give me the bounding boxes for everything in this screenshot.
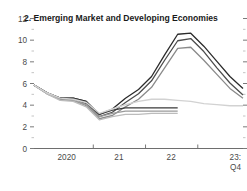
x-tick-label: 22 (167, 153, 177, 162)
x-axis-tick-labels: 2020212223:Q4 (58, 153, 242, 172)
x-tick-label: 23: (230, 153, 241, 162)
y-tick-label: 6 (22, 80, 27, 89)
y-tick-label: 4 (22, 101, 27, 110)
x-tick-label: 2020 (58, 153, 77, 162)
y-tick-label: 12 (18, 15, 28, 24)
x-tick-sublabel: Q4 (230, 163, 241, 172)
data-series-group (34, 33, 243, 120)
x-axis-ticks (93, 145, 198, 149)
y-axis-ticks (30, 19, 34, 149)
chart-container: 2. Emerging Market and Developing Econom… (0, 0, 247, 191)
y-tick-label: 10 (18, 36, 28, 45)
x-tick-label: 21 (114, 153, 124, 162)
y-tick-label: 2 (22, 123, 27, 132)
y-tick-label: 0 (22, 145, 27, 154)
y-tick-label: 8 (22, 58, 27, 67)
y-axis-tick-labels: 024681012 (18, 15, 28, 154)
right-axis-ticks (243, 19, 247, 149)
line-chart: 2. Emerging Market and Developing Econom… (0, 0, 247, 191)
chart-title: 2. Emerging Market and Developing Econom… (24, 13, 218, 23)
series-line-series-1-dark (34, 33, 243, 114)
